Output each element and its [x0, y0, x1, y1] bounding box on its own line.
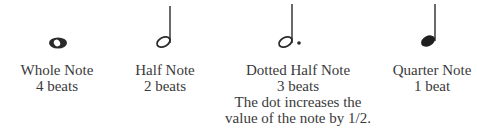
whole-note-label: Whole Note 4 beats	[7, 62, 107, 94]
note-name: Dotted Half Note	[218, 62, 378, 78]
note-name: Whole Note	[7, 62, 107, 78]
note-beats: 4 beats	[7, 78, 107, 94]
note-beats: 3 beats	[218, 78, 378, 94]
note-name: Quarter Note	[382, 62, 477, 78]
note-beats: 2 beats	[115, 78, 215, 94]
note-explanation-line1: The dot increases the	[218, 94, 378, 110]
note-explanation-line2: value of the note by 1/2.	[218, 110, 378, 126]
note-beats: 1 beat	[382, 78, 477, 94]
dotted-half-note-label: Dotted Half Note 3 beats The dot increas…	[218, 62, 378, 126]
note-name: Half Note	[115, 62, 215, 78]
dotted-half-note-icon	[274, 2, 306, 50]
quarter-note-icon	[416, 2, 440, 50]
half-note-label: Half Note 2 beats	[115, 62, 215, 94]
half-note-icon	[152, 4, 176, 50]
whole-note-icon	[44, 34, 72, 52]
quarter-note-label: Quarter Note 1 beat	[382, 62, 477, 94]
